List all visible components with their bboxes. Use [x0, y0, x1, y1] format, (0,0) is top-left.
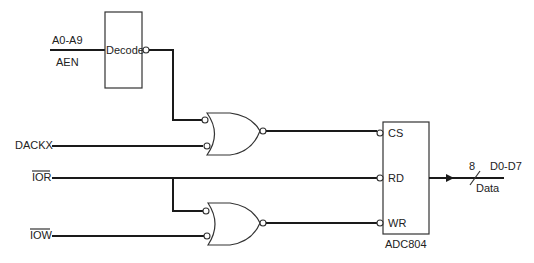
- chip-name-label: ADC804: [385, 238, 427, 250]
- gate1-output-bubble-icon: [260, 128, 266, 134]
- pin-wr-label: WR: [388, 217, 406, 229]
- gate2-input2-bubble-icon: [204, 233, 210, 239]
- gate1-input1-bubble-icon: [202, 117, 208, 123]
- decode-to-gate1-wire: [149, 50, 202, 120]
- gate2-output-bubble-icon: [260, 220, 266, 226]
- bus-width-label: 8: [469, 160, 475, 172]
- cs-pin-bubble-icon: [377, 130, 383, 136]
- label-a0-a9: A0-A9: [52, 34, 83, 46]
- bus-arrow-icon: [446, 174, 454, 182]
- pin-cs-label: CS: [388, 127, 403, 139]
- gate2-input1-bubble-icon: [203, 208, 209, 214]
- gate2-nor-icon: [208, 203, 260, 245]
- bus-name-label: D0-D7: [490, 160, 522, 172]
- label-dackx: DACKX: [15, 139, 54, 151]
- wr-pin-bubble-icon: [377, 220, 383, 226]
- pin-rd-label: RD: [388, 172, 404, 184]
- gate1-input2-bubble-icon: [204, 143, 210, 149]
- decode-label: Decode: [106, 44, 144, 56]
- label-iow: IOW: [30, 229, 53, 241]
- circuit-diagram: A0-A9 AEN Decode DACKX IOR IOW CS RD WR …: [0, 0, 534, 263]
- bus-data-label: Data: [476, 182, 500, 194]
- ior-to-gate2-wire: [173, 178, 203, 211]
- decode-inverted-output-icon: [143, 47, 149, 53]
- label-aen: AEN: [56, 56, 79, 68]
- gate1-nor-icon: [207, 113, 260, 155]
- label-ior: IOR: [32, 171, 52, 183]
- rd-pin-bubble-icon: [377, 175, 383, 181]
